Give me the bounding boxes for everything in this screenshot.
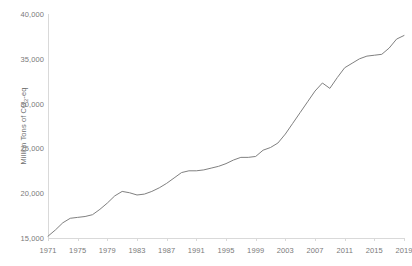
x-axis-tick-label: 1975: [69, 246, 86, 255]
x-axis-tick-mark: [256, 238, 257, 241]
x-axis-tick-label: 1983: [128, 246, 145, 255]
x-axis-tick-label: 1995: [217, 246, 234, 255]
x-axis-tick-mark: [226, 238, 227, 241]
y-axis-tick-label: 25,000: [20, 144, 44, 153]
y-axis-tick-label: 15,000: [20, 234, 44, 243]
y-axis-tick-label: 30,000: [20, 99, 44, 108]
x-axis-tick-mark: [137, 238, 138, 241]
x-axis-tick-label: 1991: [188, 246, 205, 255]
x-axis-tick-label: 2007: [306, 246, 323, 255]
x-axis-tick-mark: [345, 238, 346, 241]
y-axis-tick-label: 40,000: [20, 10, 44, 19]
x-axis-tick-label: 1999: [247, 246, 264, 255]
line-chart: Million Tons of CO2-eq 40,00035,00030,00…: [0, 0, 412, 266]
y-axis-tick-label: 35,000: [20, 54, 44, 63]
x-axis-tick-mark: [285, 238, 286, 241]
x-axis-tick-label: 2003: [277, 246, 294, 255]
x-axis-tick-label: 1971: [39, 246, 56, 255]
x-axis-tick-mark: [107, 238, 108, 241]
x-axis-tick-label: 2015: [366, 246, 383, 255]
x-axis-tick-mark: [167, 238, 168, 241]
x-axis-tick-label: 1979: [99, 246, 116, 255]
series-svg: [48, 14, 404, 238]
data-series-line: [48, 36, 404, 237]
x-axis-tick-label: 1987: [158, 246, 175, 255]
x-axis-tick-mark: [315, 238, 316, 241]
y-axis-tick-labels: 40,00035,00030,00025,00020,00015,000: [0, 0, 44, 266]
x-axis-tick-mark: [404, 238, 405, 241]
x-axis-tick-label: 2019: [395, 246, 412, 255]
plot-area: [48, 14, 404, 238]
x-axis-tick-mark: [78, 238, 79, 241]
x-axis-tick-label: 2011: [336, 246, 353, 255]
x-axis-tick-mark: [374, 238, 375, 241]
y-axis-tick-label: 20,000: [20, 189, 44, 198]
x-axis-tick-mark: [196, 238, 197, 241]
x-axis-tick-mark: [48, 238, 49, 241]
